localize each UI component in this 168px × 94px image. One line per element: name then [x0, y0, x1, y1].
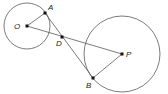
point-A [44, 12, 47, 15]
point-B [92, 77, 95, 80]
segment-AB [45, 13, 93, 78]
segment-OP [27, 26, 122, 54]
label-O: O [14, 22, 20, 31]
segment-PB [93, 54, 122, 78]
label-A: A [47, 3, 53, 12]
label-D: D [56, 39, 62, 48]
geometry-diagram: O A D P B [0, 0, 168, 94]
point-O [26, 25, 29, 28]
label-B: B [86, 81, 92, 90]
label-P: P [126, 50, 132, 59]
segment-OA [27, 13, 45, 26]
point-P [121, 53, 124, 56]
